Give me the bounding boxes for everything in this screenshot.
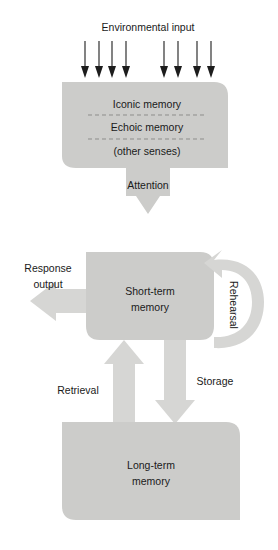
sensory-row-iconic-memory: Iconic memory <box>113 98 182 110</box>
response-output-label-line2: output <box>33 278 62 290</box>
retrieval-label: Retrieval <box>57 384 98 396</box>
long-term-memory-shape <box>62 422 240 520</box>
input-arrow-5 <box>160 41 168 78</box>
short-term-memory-label-line2: memory <box>131 301 170 313</box>
memory-model-diagram: Environmental input <box>0 0 278 550</box>
attention-label: Attention <box>127 179 169 191</box>
input-arrow-3 <box>108 41 116 78</box>
retrieval-arrow <box>104 340 144 424</box>
short-term-memory-label-line1: Short-term <box>125 285 175 297</box>
input-arrow-8 <box>207 41 215 78</box>
diagram-canvas: Environmental input <box>0 0 278 550</box>
response-output-label-line1: Response <box>24 262 71 274</box>
input-arrow-6 <box>174 41 182 78</box>
sensory-row-echoic-memory: Echoic memory <box>111 121 184 133</box>
sensory-row-other-senses: (other senses) <box>113 145 180 157</box>
input-arrow-1 <box>81 41 89 78</box>
long-term-memory-label-line2: memory <box>132 475 171 487</box>
storage-arrow <box>155 340 195 424</box>
storage-label: Storage <box>197 375 234 387</box>
environmental-input-arrows <box>81 41 215 78</box>
input-arrow-4 <box>122 41 130 78</box>
input-arrow-7 <box>193 41 201 78</box>
environmental-input-label: Environmental input <box>102 21 195 33</box>
input-arrow-2 <box>95 41 103 78</box>
long-term-memory-label-line1: Long-term <box>127 459 175 471</box>
rehearsal-label: Rehearsal <box>228 281 240 329</box>
